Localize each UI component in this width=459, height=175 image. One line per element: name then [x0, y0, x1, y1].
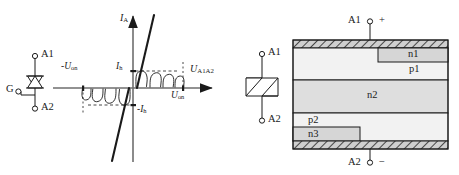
- triac-symbol-with-gate: [16, 53, 44, 111]
- symbol-label-gate: G: [6, 84, 14, 95]
- structure-terminal-a2-label: A2: [348, 157, 361, 168]
- tick-ih-positive: [131, 70, 137, 72]
- tick-label-uon-positive: Uon: [171, 91, 184, 101]
- layer-n3: [293, 127, 360, 141]
- right-panel-graphic: [230, 0, 459, 175]
- right-symbol-label-a1: A1: [268, 47, 281, 58]
- terminal-structure-a1-node: [367, 19, 372, 24]
- layer-label-p1: p1: [409, 64, 420, 75]
- tick-label-uon-negative: -Uon: [61, 62, 77, 72]
- layer-label-n3: n3: [308, 129, 319, 140]
- electrode-top: [293, 40, 448, 48]
- tick-label-ih-negative: -Ih: [137, 105, 147, 115]
- structure-terminal-a2-polarity: −: [379, 157, 385, 168]
- breakover-hook-q3-2: [105, 89, 116, 103]
- layer-label-n1: n1: [408, 49, 419, 60]
- lead-gate: [21, 92, 35, 96]
- y-axis-label: IA: [120, 13, 128, 24]
- triangle-right-up: [262, 78, 278, 96]
- layer-label-n2: n2: [367, 90, 378, 101]
- figure-canvas: A1 A2 G IA UA1A2 Ih -Ih Uon -Uon: [0, 0, 459, 175]
- structure-terminal-a1-label: A1: [348, 15, 361, 26]
- electrode-bottom: [293, 141, 448, 149]
- terminal-structure-a2-node: [367, 160, 372, 165]
- tick-uon-negative: [82, 86, 84, 92]
- symbol-label-a2: A2: [41, 102, 54, 113]
- right-symbol-label-a2: A2: [268, 114, 281, 125]
- structure-terminal-a1-polarity: +: [379, 15, 385, 26]
- breakover-hook-q3-3: [92, 89, 103, 102]
- terminal-a2-node: [32, 106, 37, 111]
- breakover-hook-q1-2: [150, 73, 161, 87]
- terminal-gate-node: [16, 89, 21, 94]
- terminal-a1-node: [259, 51, 264, 56]
- breakover-hook-q1-3: [163, 74, 174, 87]
- gate-triggered-breakover-curves-q3: [82, 89, 130, 105]
- layer-label-p2: p2: [308, 115, 319, 126]
- triangle-left-down: [246, 78, 262, 96]
- tick-ih-negative: [131, 104, 137, 106]
- terminal-a2-node: [259, 118, 264, 123]
- terminal-a1-node: [32, 53, 37, 58]
- left-panel-graphic: [0, 0, 230, 175]
- symbol-label-a1: A1: [41, 49, 54, 60]
- gate-triggered-breakover-curves-q1: [136, 71, 184, 87]
- tick-label-ih-positive: Ih: [116, 62, 122, 72]
- iv-axes: [53, 16, 212, 162]
- x-axis-label: UA1A2: [190, 64, 214, 75]
